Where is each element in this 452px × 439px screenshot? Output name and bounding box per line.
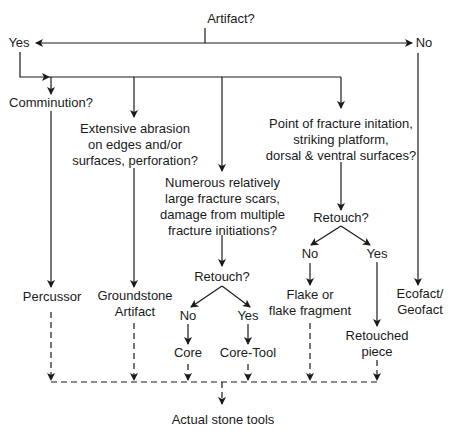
yes-label: Yes xyxy=(2,35,36,51)
retouch-flake-question: Retouch? xyxy=(306,210,376,226)
flake-label: Flake or flake fragment xyxy=(265,287,355,319)
fracture-scars-line-1: Numerous relatively xyxy=(150,175,295,191)
artifact-question: Artifact? xyxy=(186,11,276,27)
ecofact-label: Ecofact/ Geofact xyxy=(392,286,448,318)
fracture-point-line-3: dorsal & ventral surfaces? xyxy=(258,148,424,164)
fracture-scars-line-3: damage from multiple xyxy=(150,207,295,223)
fracture-scars-line-2: large fracture scars, xyxy=(150,191,295,207)
fracture-point-question: Point of fracture initation, striking pl… xyxy=(258,116,424,164)
core-label: Core xyxy=(170,345,206,361)
groundstone-line-2: Artifact xyxy=(94,304,176,320)
retouched-line-1: Retouched xyxy=(342,328,412,344)
groundstone-label: Groundstone Artifact xyxy=(94,288,176,320)
no-label: No xyxy=(412,35,436,51)
ecofact-line-1: Ecofact/ xyxy=(392,286,448,302)
comminution-question: Comminution? xyxy=(6,95,96,111)
fracture-scars-question: Numerous relatively large fracture scars… xyxy=(150,175,295,239)
retouch-flake-no: No xyxy=(296,246,324,262)
retouch-flake-yes: Yes xyxy=(362,246,392,262)
retouched-piece-label: Retouched piece xyxy=(342,328,412,360)
ecofact-line-2: Geofact xyxy=(392,302,448,318)
actual-stone-tools-label: Actual stone tools xyxy=(160,412,286,428)
abrasion-line-2: on edges and/or xyxy=(70,137,200,153)
retouched-line-2: piece xyxy=(342,344,412,360)
flake-line-1: Flake or xyxy=(265,287,355,303)
flowchart-diagram: Artifact? Yes No Comminution? Extensive … xyxy=(0,0,452,439)
groundstone-line-1: Groundstone xyxy=(94,288,176,304)
retouch-core-yes: Yes xyxy=(233,308,263,324)
fracture-point-line-2: striking platform, xyxy=(258,132,424,148)
fracture-point-line-1: Point of fracture initation, xyxy=(258,116,424,132)
abrasion-line-3: surfaces, perforation? xyxy=(70,153,200,169)
percussor-label: Percussor xyxy=(16,289,88,305)
core-tool-label: Core-Tool xyxy=(218,345,278,361)
abrasion-question: Extensive abrasion on edges and/or surfa… xyxy=(70,121,200,169)
flake-line-2: flake fragment xyxy=(265,303,355,319)
retouch-core-question: Retouch? xyxy=(187,269,257,285)
fracture-scars-line-4: fracture initiations? xyxy=(150,223,295,239)
retouch-core-no: No xyxy=(174,308,202,324)
abrasion-line-1: Extensive abrasion xyxy=(70,121,200,137)
